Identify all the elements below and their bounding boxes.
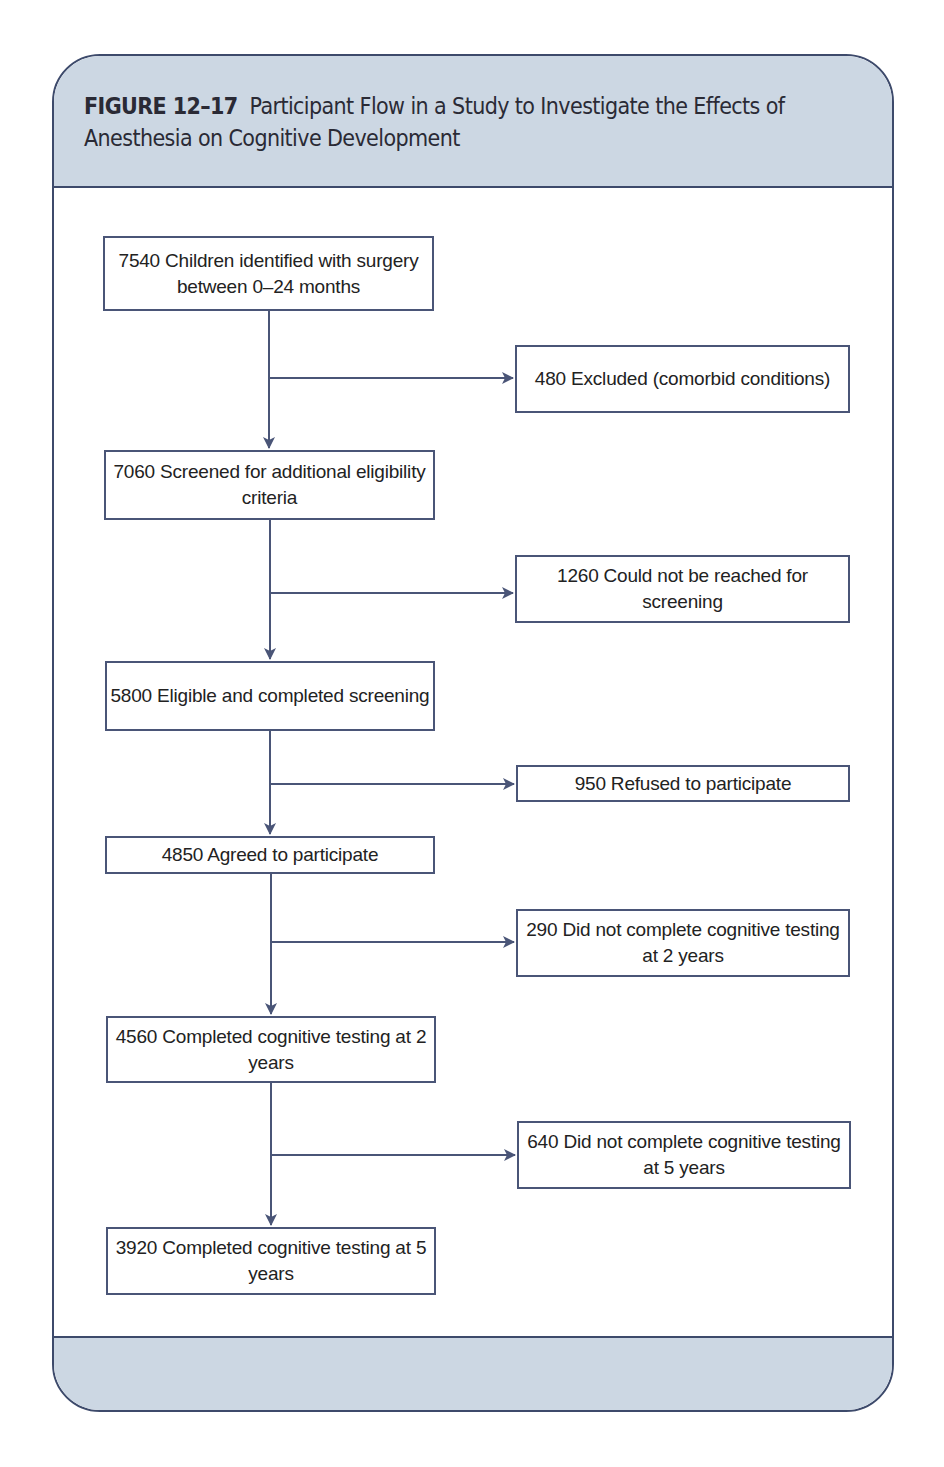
flow-box-identified: 7540 Children identified with surgery be… — [103, 236, 434, 311]
exclusion-box-comorbid: 480 Excluded (comorbid conditions) — [515, 345, 850, 413]
flow-box-tested-2y: 4560 Completed cognitive testing at 2 ye… — [106, 1016, 436, 1083]
exclusion-box-incomplete-5y: 640 Did not complete cognitive testing a… — [517, 1121, 851, 1189]
exclusion-box-refused: 950 Refused to participate — [516, 765, 850, 802]
flow-box-tested-5y: 3920 Completed cognitive testing at 5 ye… — [106, 1227, 436, 1295]
flow-box-agreed: 4850 Agreed to participate — [105, 836, 435, 874]
exclusion-box-unreached: 1260 Could not be reached for screening — [515, 555, 850, 623]
flow-box-eligible: 5800 Eligible and completed screening — [105, 661, 435, 731]
flow-box-screened: 7060 Screened for additional eligibility… — [104, 450, 435, 520]
exclusion-box-incomplete-2y: 290 Did not complete cognitive testing a… — [516, 909, 850, 977]
